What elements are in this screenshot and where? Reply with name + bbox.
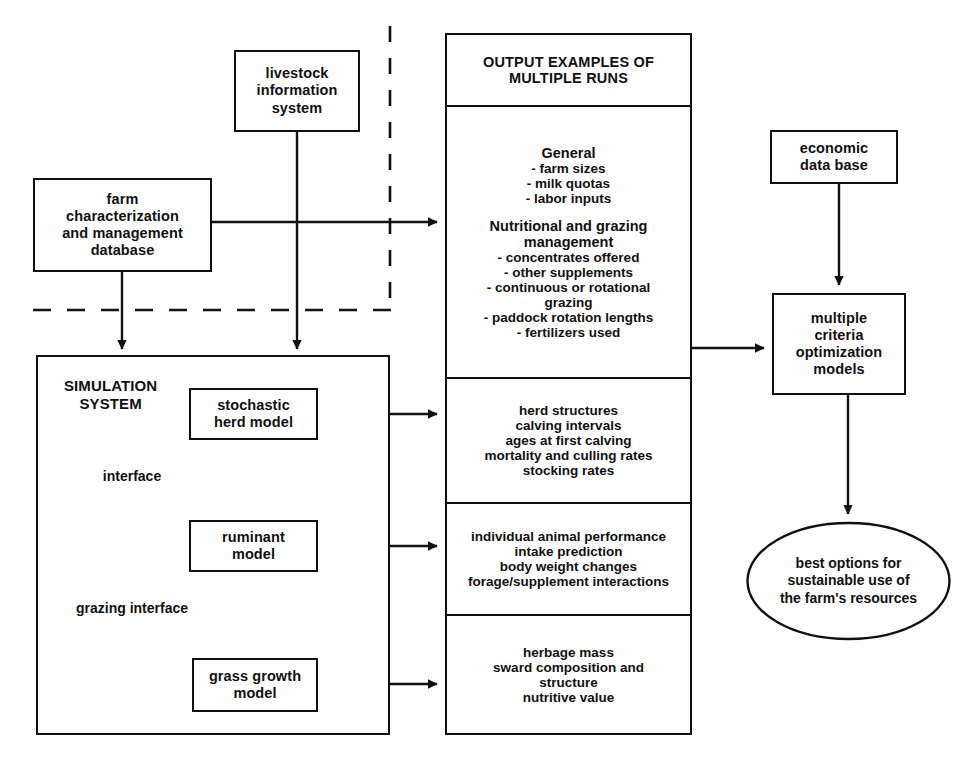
node-grass-growth-model[interactable]: grass growth model <box>192 658 318 712</box>
grazing-interface-line-2: interface <box>130 600 188 616</box>
economic-line-1: economic <box>800 140 869 157</box>
animal-output-line-3: body weight changes <box>500 559 637 574</box>
output-section-herd: herd structures calving intervals ages a… <box>447 377 690 502</box>
output-header-line-1: OUTPUT EXAMPLES OF <box>483 54 654 70</box>
node-multiple-criteria-optimization-models[interactable]: multiple criteria optimization models <box>772 293 906 395</box>
nutritional-bullet-5: - fertilizers used <box>484 325 654 340</box>
nutritional-title-line-1: Nutritional and grazing <box>484 218 654 234</box>
simulation-title-line-2: SYSTEM <box>64 395 157 413</box>
node-livestock-information-system[interactable]: livestock information system <box>234 50 360 132</box>
interface-line-1: interface <box>103 468 161 484</box>
grass-line-1: grass growth <box>209 668 301 685</box>
nutritional-bullet-2: - other supplements <box>484 265 654 280</box>
general-bullet-3: - labor inputs <box>526 191 612 206</box>
output-group-general: General - farm sizes - milk quotas - lab… <box>526 145 612 206</box>
animal-output-line-4: forage/supplement interactions <box>468 574 669 589</box>
animal-output-line-2: intake prediction <box>514 544 622 559</box>
goal-line-2: sustainable use of <box>787 572 909 590</box>
node-farm-characterization-database[interactable]: farm characterization and management dat… <box>33 178 212 272</box>
herbage-output-line-2: sward composition and <box>493 660 644 675</box>
mco-line-4: models <box>813 361 864 378</box>
nutritional-bullet-1: - concentrates offered <box>484 250 654 265</box>
node-stochastic-herd-model[interactable]: stochastic herd model <box>189 388 318 440</box>
mco-line-3: optimization <box>796 344 883 361</box>
output-section-herbage: herbage mass sward composition and struc… <box>447 614 690 733</box>
farm-line-2: characterization <box>66 208 179 225</box>
grazing-interface-line-1: grazing <box>76 600 126 616</box>
mco-line-1: multiple <box>811 310 867 327</box>
node-best-options-goal[interactable]: best options for sustainable use of the … <box>746 522 951 640</box>
animal-output-line-1: individual animal performance <box>471 529 666 544</box>
nutritional-bullet-3-cont: grazing <box>484 295 654 310</box>
livestock-line-1: livestock <box>266 65 329 82</box>
edge-label-interface: interface <box>72 468 192 485</box>
general-bullet-1: - farm sizes <box>526 161 612 176</box>
edge-label-grazing-interface: grazing interface <box>72 600 192 617</box>
herd-output-line-1: herd structures <box>519 403 618 418</box>
nutritional-bullet-4: - paddock rotation lengths <box>484 310 654 325</box>
output-header-line-2: MULTIPLE RUNS <box>509 70 628 86</box>
diagram-canvas: livestock information system farm charac… <box>0 0 964 766</box>
general-title: General <box>526 145 612 161</box>
output-section-management: General - farm sizes - milk quotas - lab… <box>447 105 690 377</box>
node-ruminant-model[interactable]: ruminant model <box>189 520 318 572</box>
farm-line-3: and management <box>62 225 183 242</box>
herbage-output-line-3: structure <box>539 675 598 690</box>
goal-line-3: the farm's resources <box>780 590 917 608</box>
livestock-line-3: system <box>272 100 323 117</box>
herd-output-line-5: stocking rates <box>523 463 615 478</box>
panel-output-examples[interactable]: OUTPUT EXAMPLES OF MULTIPLE RUNS General… <box>445 33 692 735</box>
herbage-output-line-4: nutritive value <box>523 690 615 705</box>
general-bullet-2: - milk quotas <box>526 176 612 191</box>
nutritional-bullet-3: - continuous or rotational <box>484 280 654 295</box>
ruminant-line-2: model <box>232 546 275 563</box>
herbage-output-line-1: herbage mass <box>523 645 614 660</box>
grass-line-2: model <box>233 685 276 702</box>
goal-line-1: best options for <box>796 555 902 573</box>
ruminant-line-1: ruminant <box>222 529 285 546</box>
farm-line-1: farm <box>107 191 139 208</box>
herd-output-line-4: mortality and culling rates <box>484 448 652 463</box>
simulation-system-title: SIMULATION SYSTEM <box>64 377 157 413</box>
livestock-line-2: information <box>257 82 338 99</box>
output-section-animal: individual animal performance intake pre… <box>447 502 690 614</box>
nutritional-title-line-2: management <box>484 234 654 250</box>
node-economic-database[interactable]: economic data base <box>770 130 898 184</box>
output-panel-header: OUTPUT EXAMPLES OF MULTIPLE RUNS <box>447 35 690 105</box>
farm-line-4: database <box>91 242 155 259</box>
herd-output-line-3: ages at first calving <box>505 433 631 448</box>
goal-text: best options for sustainable use of the … <box>746 522 951 640</box>
economic-line-2: data base <box>800 157 868 174</box>
herd-line-2: herd model <box>214 414 293 431</box>
mco-line-2: criteria <box>814 327 863 344</box>
herd-line-1: stochastic <box>217 397 290 414</box>
simulation-title-line-1: SIMULATION <box>64 377 157 395</box>
herd-output-line-2: calving intervals <box>516 418 622 433</box>
output-group-nutritional: Nutritional and grazing management - con… <box>484 218 654 340</box>
